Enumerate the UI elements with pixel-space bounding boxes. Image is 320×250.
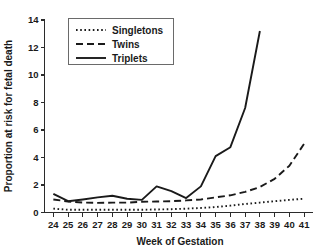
- fetal-death-risk-line-chart: 02468101214 2425262728293031323334353637…: [0, 0, 320, 250]
- x-tick-label: 27: [92, 219, 103, 230]
- figure-container: 02468101214 2425262728293031323334353637…: [0, 0, 320, 250]
- x-tick-label: 33: [181, 219, 192, 230]
- x-tick-label: 25: [63, 219, 74, 230]
- y-tick-label: 8: [33, 97, 38, 108]
- y-tick-label: 0: [33, 207, 38, 218]
- legend-label-triplets: Triplets: [112, 53, 148, 64]
- x-tick-label: 39: [269, 219, 280, 230]
- y-tick-label: 2: [33, 179, 38, 190]
- x-tick-label: 41: [299, 219, 310, 230]
- y-tick-label: 10: [28, 69, 39, 80]
- y-tick-label: 4: [33, 152, 39, 163]
- y-axis-title: Proportion at risk for fetal death: [3, 40, 14, 192]
- y-tick-label: 14: [28, 14, 39, 25]
- y-tick-label: 12: [28, 42, 39, 53]
- x-tick-label: 28: [107, 219, 118, 230]
- chart-legend: SingletonsTwinsTriplets: [69, 19, 174, 65]
- legend-label-singletons: Singletons: [112, 25, 164, 36]
- y-axis-ticks: 02468101214: [28, 14, 45, 218]
- x-tick-label: 40: [284, 219, 295, 230]
- x-tick-label: 31: [151, 219, 162, 230]
- x-tick-label: 35: [210, 219, 221, 230]
- legend-label-twins: Twins: [112, 39, 140, 50]
- x-tick-label: 37: [240, 219, 251, 230]
- x-axis-ticks: 242526272829303132333435363738394041: [48, 213, 310, 230]
- x-tick-label: 36: [225, 219, 236, 230]
- x-tick-label: 34: [196, 219, 207, 230]
- x-tick-label: 26: [78, 219, 89, 230]
- x-tick-label: 30: [137, 219, 148, 230]
- x-axis-title: Week of Gestation: [136, 236, 223, 247]
- x-tick-label: 38: [255, 219, 266, 230]
- x-tick-label: 32: [166, 219, 177, 230]
- y-tick-label: 6: [33, 124, 38, 135]
- x-tick-label: 29: [122, 219, 133, 230]
- x-tick-label: 24: [48, 219, 59, 230]
